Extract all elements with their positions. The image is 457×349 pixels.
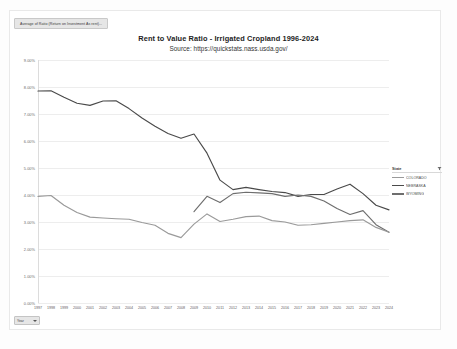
x-axis-tick-label: 2017 xyxy=(294,306,302,310)
legend-header: State xyxy=(392,166,442,173)
series-line xyxy=(38,196,389,238)
x-axis-tick-label: 2009 xyxy=(190,306,198,310)
legend-entry[interactable]: COLORADO xyxy=(392,175,442,180)
chart-subtitle: Source: https://quickstats.nass.usda.gov… xyxy=(0,45,457,52)
legend-title: State xyxy=(392,166,402,171)
legend-entry-label: NEBRASKA xyxy=(406,184,426,188)
series-line xyxy=(194,192,389,232)
x-axis-tick-label: 2005 xyxy=(138,306,146,310)
measure-field-pill[interactable]: Average of Ratio (Return on Investment A… xyxy=(14,18,108,29)
x-axis-tick-label: 1999 xyxy=(60,306,68,310)
legend-entry-label: COLORADO xyxy=(406,176,427,180)
series-lines xyxy=(38,60,389,303)
y-axis-tick-label: 3.00% xyxy=(24,220,35,225)
x-axis-tick-label: 2015 xyxy=(268,306,276,310)
y-axis-tick-label: 4.00% xyxy=(24,193,35,198)
legend: State COLORADONEBRASKAWYOMING xyxy=(392,166,442,200)
x-axis-tick-label: 2013 xyxy=(242,306,250,310)
x-axis-tick-label: 2010 xyxy=(203,306,211,310)
x-axis-tick-label: 2019 xyxy=(320,306,328,310)
y-axis-tick-label: 0.00% xyxy=(24,301,35,306)
legend-entry-label: WYOMING xyxy=(406,192,424,196)
x-axis-tick-label: 2006 xyxy=(151,306,159,310)
filter-icon[interactable] xyxy=(437,166,442,171)
x-axis-tick-label: 2004 xyxy=(125,306,133,310)
y-axis-tick-label: 7.00% xyxy=(24,112,35,117)
x-axis-tick-label: 2001 xyxy=(86,306,94,310)
legend-entry[interactable]: WYOMING xyxy=(392,191,442,196)
x-axis-tick-label: 1997 xyxy=(34,306,42,310)
x-axis-tick-label: 2023 xyxy=(372,306,380,310)
x-axis-tick-label: 2024 xyxy=(385,306,393,310)
measure-field-label: Average of Ratio (Return on Investment A… xyxy=(20,22,102,26)
dashboard-canvas: Average of Ratio (Return on Investment A… xyxy=(0,0,457,349)
legend-color-swatch xyxy=(392,185,404,186)
x-axis-tick-label: 2021 xyxy=(346,306,354,310)
y-axis-tick-label: 9.00% xyxy=(24,58,35,63)
x-axis-tick-label: 1998 xyxy=(47,306,55,310)
year-filter-button[interactable]: Year xyxy=(14,316,40,325)
y-axis-tick-label: 2.00% xyxy=(24,247,35,252)
legend-color-swatch xyxy=(392,177,404,178)
x-axis-tick-label: 2008 xyxy=(177,306,185,310)
legend-color-swatch xyxy=(392,193,404,194)
x-axis-tick-label: 2016 xyxy=(281,306,289,310)
y-axis-tick-label: 1.00% xyxy=(24,274,35,279)
x-axis-tick-label: 2022 xyxy=(359,306,367,310)
series-line xyxy=(38,91,389,210)
y-axis-tick-label: 8.00% xyxy=(24,85,35,90)
y-axis-tick-label: 5.00% xyxy=(24,166,35,171)
chevron-down-icon xyxy=(33,320,37,322)
year-filter-label: Year xyxy=(17,319,24,323)
x-axis-tick-label: 2012 xyxy=(229,306,237,310)
y-axis-tick-label: 6.00% xyxy=(24,139,35,144)
x-axis-tick-label: 2002 xyxy=(99,306,107,310)
x-axis-tick-label: 2007 xyxy=(164,306,172,310)
x-axis-tick-label: 2011 xyxy=(216,306,224,310)
legend-entries: COLORADONEBRASKAWYOMING xyxy=(392,175,442,196)
plot-area: 0.00%1.00%2.00%3.00%4.00%5.00%6.00%7.00%… xyxy=(38,60,389,303)
x-axis-tick-label: 2000 xyxy=(73,306,81,310)
x-axis-tick-label: 2020 xyxy=(333,306,341,310)
x-axis-tick-label: 2018 xyxy=(307,306,315,310)
x-axis-tick-label: 2003 xyxy=(112,306,120,310)
chart-title: Rent to Value Ratio - Irrigated Cropland… xyxy=(0,34,457,43)
gridline xyxy=(38,303,389,304)
legend-entry[interactable]: NEBRASKA xyxy=(392,183,442,188)
x-axis-tick-label: 2014 xyxy=(255,306,263,310)
